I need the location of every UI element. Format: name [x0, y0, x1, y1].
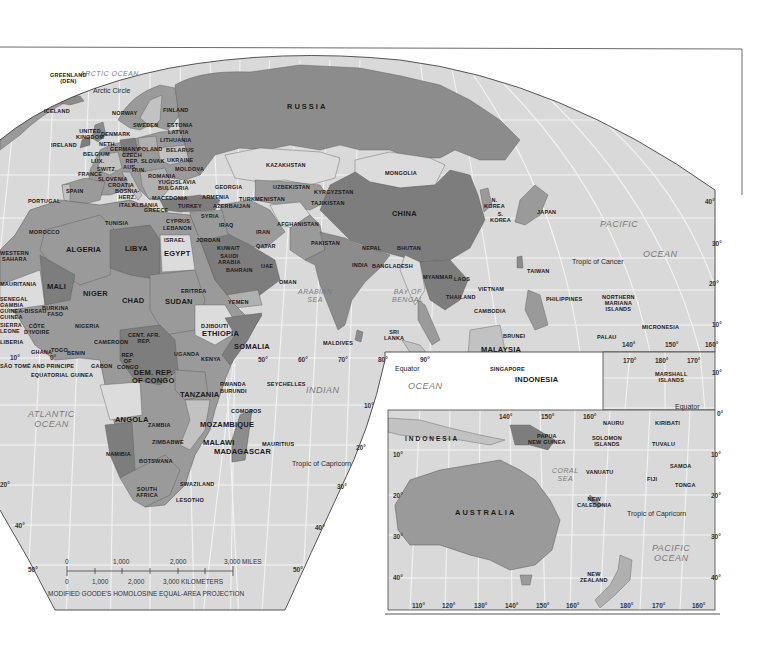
label-israel: ISRAEL [164, 237, 185, 243]
label-pakistan: PAKISTAN [311, 240, 340, 246]
label-madagascar: MADAGASCAR [214, 448, 271, 456]
label-tanzania: TANZANIA [180, 391, 219, 399]
label-malaysia: MALAYSIA [481, 346, 521, 354]
deg-aus-right-30: 30° [711, 533, 721, 540]
label-kuwait: KUWAIT [217, 245, 240, 251]
label-somalia: SOMALIA [234, 343, 270, 351]
deg-lon-0: 0° [50, 354, 56, 361]
label-portugal: PORTUGAL [28, 198, 60, 204]
label-ghana: GHANA [31, 349, 52, 355]
scale-miles-3000: 3,000 MILES [224, 558, 262, 565]
ocean-label-indian-ocean: OCEAN [408, 381, 443, 391]
label-russia: RUSSIA [287, 104, 327, 110]
label-equatorial-guinea: EQUATORIAL GUINEA [31, 372, 93, 378]
deg-lat-right-40: 40° [315, 524, 325, 531]
label-egypt: EGYPT [164, 250, 190, 258]
projection-caption: MODIFIED GOODE'S HOMOLOSINE EQUAL-AREA P… [48, 590, 244, 597]
ocean-label-pacific: PACIFIC [600, 219, 638, 229]
scale-km-1000: 1,000 [92, 578, 108, 585]
deg-aus-bottom-140: 140° [505, 602, 518, 609]
line-label-tropic-capricorn-inset: Tropic of Capricorn [627, 510, 686, 517]
deg-aus-150: 150° [541, 413, 554, 420]
label-rwanda: RWANDA [220, 381, 246, 387]
label-angola: ANGOLA [115, 416, 149, 424]
label-vietnam: VIETNAM [478, 286, 504, 292]
label-sweden: SWEDEN [133, 122, 158, 128]
deg-inset-lat-0: 0° [717, 410, 723, 417]
scale-km-3000: 3,000 KILOMETERS [163, 578, 223, 585]
deg-inset-170b: 170° [687, 357, 700, 364]
label-niger: NIGER [83, 290, 108, 298]
label-gabon: GABON [91, 363, 112, 369]
label-ethiopia: ETHIOPIA [202, 330, 239, 338]
label-india: INDIA [352, 262, 368, 268]
deg-lat-left-50: 50° [28, 566, 38, 573]
label-n-mariana: NORTHERN MARIANA ISLANDS [602, 294, 635, 312]
label-nauru: NAURU [603, 420, 624, 426]
label-eritrea: ERITREA [181, 288, 207, 294]
label-cyprus: CYPRUS [166, 218, 190, 224]
deg-inset-170a: 170° [623, 357, 636, 364]
deg-aus-left-30: 30° [393, 533, 403, 540]
label-sri-lanka: SRI LANKA [384, 329, 404, 341]
deg-aus-right-20: 20° [711, 492, 721, 499]
scale-miles-0: 0 [65, 558, 69, 565]
label-iceland: ICELAND [44, 108, 70, 114]
label-jordan: JORDAN [196, 237, 220, 243]
deg-lon-80: 80° [378, 356, 388, 363]
label-car: CENT. AFR. REP. [128, 332, 160, 344]
deg-aus-bottom-120: 120° [442, 602, 455, 609]
label-afghanistan: AFGHANISTAN [277, 221, 319, 227]
label-tunisia: TUNISIA [105, 220, 128, 226]
label-sudan: SUDAN [165, 298, 193, 306]
deg-aus-bottom-160b: 160° [692, 602, 705, 609]
deg-lon-70: 70° [338, 356, 348, 363]
label-tuvalu: TUVALU [652, 441, 675, 447]
label-spain: SPAIN [66, 188, 83, 194]
label-zimbabwe: ZIMBABWE [152, 439, 184, 445]
deg-inset-lat-10: 10° [712, 369, 722, 376]
label-namibia: NAMIBIA [106, 451, 131, 457]
label-finland: FINLAND [163, 107, 189, 113]
label-belarus: BELARUS [166, 147, 194, 153]
ocean-label-pacific-ocean: OCEAN [643, 249, 678, 259]
label-marshall-islands: MARSHALL ISLANDS [655, 371, 687, 383]
label-kiribati: KIRIBATI [655, 420, 680, 426]
deg-pac-30: 30° [712, 240, 722, 247]
label-turkey: TURKEY [178, 203, 202, 209]
label-georgia: GEORGIA [215, 184, 242, 190]
label-lithuania: LITHUANIA [160, 137, 191, 143]
label-armenia: ARMENIA [202, 194, 229, 200]
label-laos: LAOS [454, 276, 470, 282]
label-cameroon: CAMEROON [94, 339, 128, 345]
label-uzbekistan: UZBEKISTAN [273, 184, 310, 190]
ocean-label-atlantic: ATLANTIC OCEAN [28, 409, 75, 429]
label-mauritius: MAURITIUS [262, 441, 294, 447]
label-tajikistan: TAJIKISTAN [311, 200, 345, 206]
ocean-label-arabian-sea: ARABIAN SEA [298, 288, 332, 304]
deg-pac-150: 150° [665, 341, 678, 348]
deg-lat-right-50: 50° [293, 566, 303, 573]
deg-aus-bottom-130: 130° [474, 602, 487, 609]
deg-aus-bottom-170: 170° [652, 602, 665, 609]
label-japan: JAPAN [537, 209, 556, 215]
deg-pac-140: 140° [622, 341, 635, 348]
label-senegal-group: SENEGAL GAMBIA GUINEA-BISSAU GUINEA [0, 296, 47, 320]
taiwan-land [517, 256, 523, 268]
deg-aus-bottom-110: 110° [412, 602, 425, 609]
label-thailand: THAILAND [446, 294, 476, 300]
label-s-korea: S. KOREA [490, 211, 511, 223]
label-mongolia: MONGOLIA [385, 170, 417, 176]
label-libya: LIBYA [125, 245, 148, 253]
label-iraq: IRAQ [219, 222, 234, 228]
label-togo: TOGO [51, 347, 68, 353]
label-ukraine: UKRAINE [167, 157, 193, 163]
label-png: PAPUA NEW GUINEA [528, 433, 566, 445]
label-maldives: MALDIVES [323, 340, 353, 346]
label-south-africa: SOUTH AFRICA [136, 486, 158, 498]
label-czech: CZECH REP. [122, 152, 142, 164]
scale-miles-1000: 1,000 [113, 558, 129, 565]
label-zambia: ZAMBIA [148, 422, 171, 428]
label-vanuatu: VANUATU [586, 469, 613, 475]
label-kyrgyzstan: KYRGYZSTAN [314, 189, 353, 195]
